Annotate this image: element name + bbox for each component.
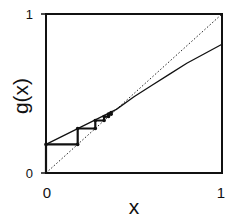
cobweb-marker bbox=[102, 115, 106, 119]
cobweb-marker bbox=[44, 143, 48, 147]
cobweb-marker bbox=[93, 119, 97, 123]
cobweb-marker bbox=[93, 127, 97, 131]
x-tick-label-0: 0 bbox=[43, 184, 51, 201]
identity-line bbox=[46, 14, 222, 173]
g-curve bbox=[46, 44, 222, 144]
cobweb-chart: 1 0 0 1 x g(x) bbox=[0, 0, 235, 220]
y-tick-label-1: 1 bbox=[26, 7, 33, 22]
cobweb-marker bbox=[76, 127, 80, 131]
y-axis-label: g(x) bbox=[9, 78, 32, 114]
x-tick-label-1: 1 bbox=[217, 184, 225, 201]
y-tick-label-0: 0 bbox=[26, 166, 33, 181]
cobweb-marker bbox=[109, 111, 113, 115]
cobweb-marker bbox=[76, 143, 80, 147]
cobweb-marker bbox=[102, 119, 106, 123]
x-axis-label: x bbox=[129, 195, 140, 218]
cobweb-path bbox=[46, 113, 111, 173]
